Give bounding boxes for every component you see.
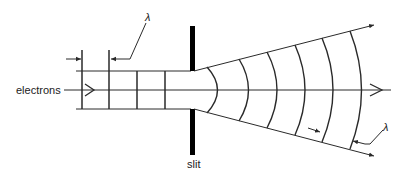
diffraction-diagram: λ λ electrons slit xyxy=(0,0,403,176)
wavelength-label-left: λ xyxy=(144,11,150,23)
left-pointing-arrow-icon xyxy=(353,141,365,144)
leader-line xyxy=(126,23,146,59)
slit-upper-wall xyxy=(190,26,195,71)
diverging-upper-edge xyxy=(194,25,374,71)
right-pointing-arrow-icon xyxy=(308,128,320,132)
wavelength-label-right: λ xyxy=(382,121,388,133)
slit-lower-wall xyxy=(190,109,195,155)
slit-label: slit xyxy=(187,158,200,170)
leader-line-right xyxy=(365,130,383,144)
electrons-label: electrons xyxy=(16,84,61,96)
diverging-lower-edge xyxy=(194,109,374,156)
wavelength-indicator-left xyxy=(66,23,146,59)
